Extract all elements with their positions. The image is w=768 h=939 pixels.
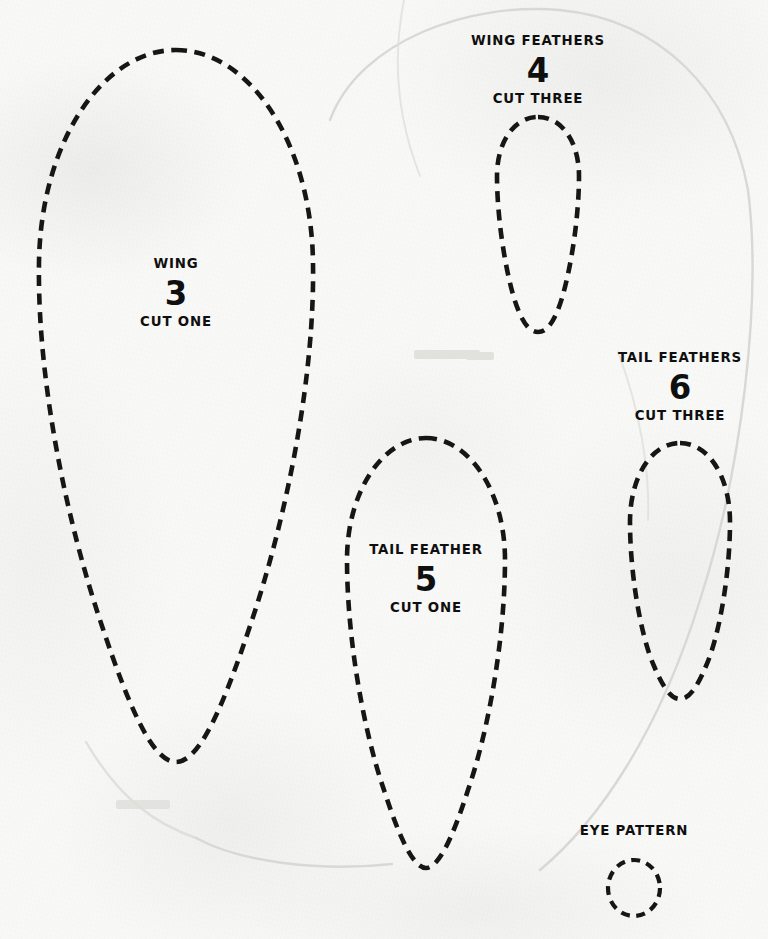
- label-tail-feather: TAIL FEATHER 5 CUT ONE: [341, 542, 511, 615]
- cut-outline-tail-feather: [347, 438, 505, 868]
- piece-cut-instruction: CUT ONE: [112, 314, 241, 329]
- piece-title: TAIL FEATHER: [348, 542, 504, 557]
- piece-number: 3: [110, 276, 243, 310]
- piece-cut-instruction: CUT THREE: [460, 91, 616, 106]
- piece-number: 5: [345, 562, 507, 596]
- piece-number: 6: [599, 370, 761, 404]
- label-wing-feathers: WING FEATHERS 4 CUT THREE: [453, 33, 623, 106]
- piece-cut-instruction: CUT ONE: [348, 600, 504, 615]
- label-eye-pattern: EYE PATTERN: [556, 823, 712, 838]
- piece-title: WING: [112, 256, 241, 271]
- piece-cut-instruction: CUT THREE: [602, 408, 758, 423]
- label-wing: WING 3 CUT ONE: [106, 256, 246, 329]
- cut-outline-wing: [39, 50, 313, 762]
- piece-title: TAIL FEATHERS: [602, 350, 758, 365]
- piece-title: WING FEATHERS: [460, 33, 616, 48]
- pattern-sheet: WING 3 CUT ONE WING FEATHERS 4 CUT THREE…: [0, 0, 768, 939]
- piece-number: 4: [457, 53, 619, 87]
- cut-outline-wing-feathers: [497, 117, 579, 332]
- piece-title: EYE PATTERN: [562, 823, 706, 838]
- cut-outlines: [0, 0, 768, 939]
- cut-outline-tail-feathers: [630, 443, 730, 699]
- cut-outline-eye-pattern: [608, 860, 660, 916]
- label-tail-feathers: TAIL FEATHERS 6 CUT THREE: [595, 350, 765, 423]
